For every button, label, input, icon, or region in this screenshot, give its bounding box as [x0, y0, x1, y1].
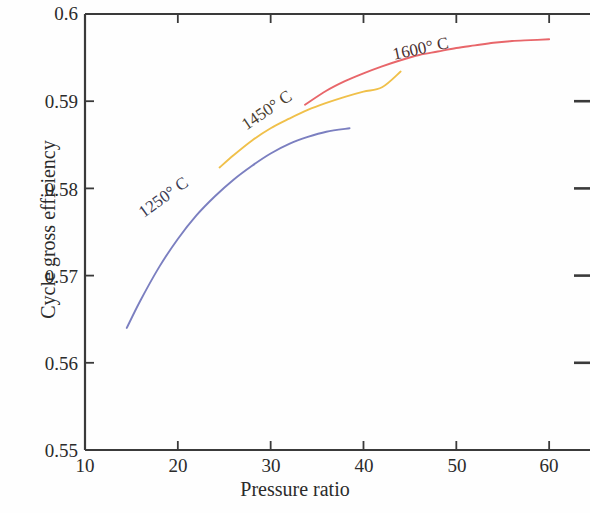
series-curve-1250c	[127, 128, 350, 328]
chart-figure: 0.55 0.56 0.57 0.58 0.59 0.6 10 20 30 40…	[0, 0, 590, 513]
axis-frame	[85, 14, 590, 450]
xtick-label-5: 60	[524, 455, 574, 477]
tick-marks	[85, 14, 590, 450]
series-curves	[127, 39, 549, 328]
xtick-label-3: 40	[339, 455, 389, 477]
ytick-label-5: 0.6	[8, 3, 78, 25]
xtick-label-2: 30	[246, 455, 296, 477]
xtick-label-0: 10	[60, 455, 110, 477]
y-axis-title: Cycle gross efficiency	[37, 100, 60, 360]
xtick-label-1: 20	[153, 455, 203, 477]
x-axis-title: Pressure ratio	[0, 478, 590, 501]
xtick-label-4: 50	[432, 455, 482, 477]
plot-area	[0, 0, 590, 513]
